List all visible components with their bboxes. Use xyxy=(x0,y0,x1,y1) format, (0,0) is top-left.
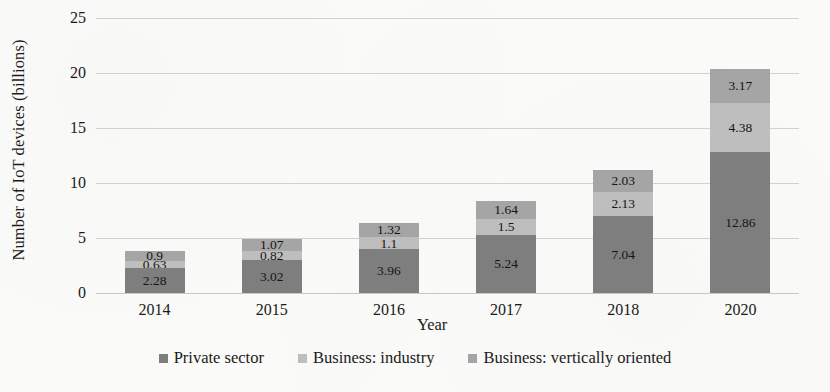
bar-value-label: 1.1 xyxy=(380,237,397,251)
x-axis-tick-label: 2016 xyxy=(373,301,405,319)
bar-segment[interactable]: 3.02 xyxy=(242,260,302,293)
bar-segment[interactable]: 2.28 xyxy=(125,268,185,293)
y-axis-tick-label: 20 xyxy=(70,64,86,82)
square-swatch-icon xyxy=(159,354,168,363)
bar-segment[interactable]: 3.17 xyxy=(710,69,770,104)
bar-segment[interactable]: 4.38 xyxy=(710,103,770,151)
bar-segment[interactable]: 2.03 xyxy=(593,170,653,192)
plot-area: 0510152025 0.90.632.281.070.823.021.321.… xyxy=(96,18,799,293)
bar-group[interactable]: 1.641.55.24 xyxy=(476,201,536,293)
bars-layer: 0.90.632.281.070.823.021.321.13.961.641.… xyxy=(96,18,799,293)
x-axis-tick-label: 2020 xyxy=(724,301,756,319)
bar-segment[interactable]: 1.1 xyxy=(359,237,419,249)
bar-group[interactable]: 2.032.137.04 xyxy=(593,170,653,293)
legend-item[interactable]: Business: vertically oriented xyxy=(468,348,671,368)
x-axis-tick-label: 2014 xyxy=(139,301,171,319)
x-axis-tick-label: 2015 xyxy=(256,301,288,319)
bar-value-label: 1.64 xyxy=(494,203,518,217)
bar-value-label: 4.38 xyxy=(729,121,753,135)
y-axis-tick-label: 5 xyxy=(78,229,86,247)
bar-group[interactable]: 3.174.3812.86 xyxy=(710,69,770,293)
x-axis-tick-label: 2018 xyxy=(607,301,639,319)
x-axis-tick-label: 2017 xyxy=(490,301,522,319)
bar-segment[interactable]: 1.64 xyxy=(476,201,536,219)
bar-segment[interactable]: 12.86 xyxy=(710,152,770,293)
bar-value-label: 3.17 xyxy=(729,79,753,93)
y-axis-tick-label: 25 xyxy=(70,9,86,27)
bar-value-label: 12.86 xyxy=(725,216,755,230)
legend-item[interactable]: Private sector xyxy=(159,348,264,368)
bar-value-label: 5.24 xyxy=(494,257,518,271)
y-axis-tick-label: 15 xyxy=(70,119,86,137)
square-swatch-icon xyxy=(298,354,307,363)
bar-group[interactable]: 0.90.632.28 xyxy=(125,251,185,293)
x-axis-title-text: Year xyxy=(417,315,447,334)
legend-item-label: Business: industry xyxy=(313,348,434,368)
y-axis-tick-label: 10 xyxy=(70,174,86,192)
bar-value-label: 3.96 xyxy=(377,264,401,278)
chart-legend: Private sectorBusiness: industryBusiness… xyxy=(0,348,830,368)
bar-value-label: 1.32 xyxy=(377,223,401,237)
axis-baseline xyxy=(96,293,799,294)
bar-segment[interactable]: 1.5 xyxy=(476,219,536,236)
stacked-bar-chart-figure: Number of IoT devices (billions) 0510152… xyxy=(0,0,830,392)
bar-segment[interactable]: 0.63 xyxy=(125,261,185,268)
y-axis-title-text: Number of IoT devices (billions) xyxy=(8,39,28,260)
x-axis-title: Year xyxy=(417,315,447,335)
legend-item-label: Private sector xyxy=(174,348,264,368)
bar-value-label: 3.02 xyxy=(260,270,284,284)
legend-item-label: Business: vertically oriented xyxy=(483,348,671,368)
legend-item[interactable]: Business: industry xyxy=(298,348,434,368)
bar-group[interactable]: 1.070.823.02 xyxy=(242,239,302,293)
bar-segment[interactable]: 7.04 xyxy=(593,216,653,293)
bar-value-label: 2.13 xyxy=(611,197,635,211)
bar-value-label: 2.28 xyxy=(143,274,167,288)
bar-value-label: 1.5 xyxy=(498,220,515,234)
bar-group[interactable]: 1.321.13.96 xyxy=(359,223,419,293)
bar-value-label: 2.03 xyxy=(611,174,635,188)
y-axis-tick-label: 0 xyxy=(78,284,86,302)
square-swatch-icon xyxy=(468,354,477,363)
bar-segment[interactable]: 3.96 xyxy=(359,249,419,293)
bar-segment[interactable]: 0.82 xyxy=(242,251,302,260)
bar-value-label: 7.04 xyxy=(611,248,635,262)
bar-segment[interactable]: 5.24 xyxy=(476,235,536,293)
y-axis-title: Number of IoT devices (billions) xyxy=(0,0,36,300)
bar-segment[interactable]: 2.13 xyxy=(593,192,653,215)
